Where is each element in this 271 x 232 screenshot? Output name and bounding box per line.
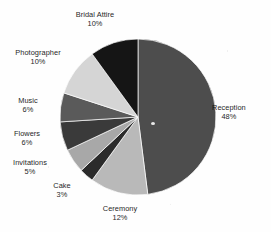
pie-label-category: Cake [53,181,70,190]
pie-label-ceremony: Ceremony12% [103,204,138,223]
pie-label-percent: 48% [212,112,246,121]
pie-label-percent: 3% [53,190,70,199]
pie-label-invitations: Invitations5% [13,158,47,177]
pie-label-percent: 12% [103,213,138,222]
pie-label-bridal-attire: Bridal Attire10% [76,10,114,29]
pie-label-flowers: Flowers6% [14,129,40,148]
pie-label-music: Music6% [18,96,38,115]
pie-chart: Reception48%Ceremony12%Cake3%Invitations… [0,0,271,232]
pie-label-category: Photographer [15,48,60,57]
pie-label-category: Music [18,96,38,105]
pie-label-photographer: Photographer10% [15,48,60,67]
pie-label-category: Bridal Attire [76,10,114,19]
pie-slice-reception [138,39,216,194]
pie-label-category: Invitations [13,158,47,167]
pie-label-reception: Reception48% [212,103,246,122]
pie-label-percent: 5% [13,167,47,176]
pie-label-percent: 10% [15,57,60,66]
pie-label-category: Flowers [14,129,40,138]
pie-label-category: Reception [212,103,246,112]
pie-label-cake: Cake3% [53,181,70,200]
pie-label-category: Ceremony [103,204,138,213]
pie-label-percent: 6% [14,138,40,147]
pie-label-percent: 10% [76,19,114,28]
pie-label-percent: 6% [18,105,38,114]
